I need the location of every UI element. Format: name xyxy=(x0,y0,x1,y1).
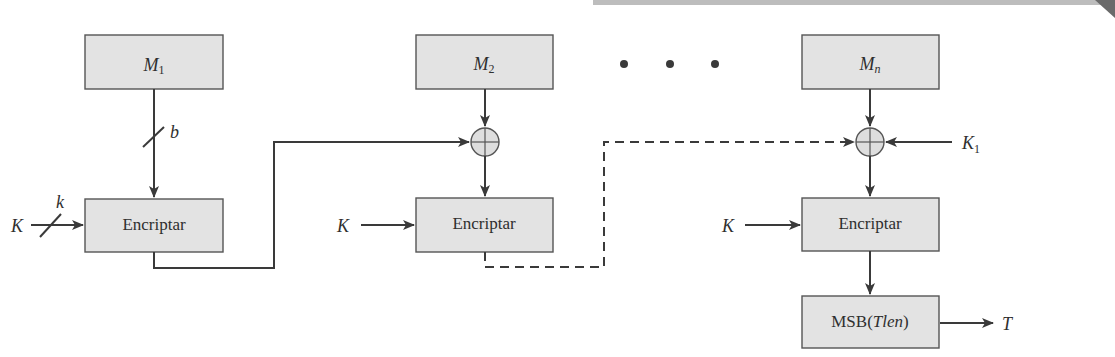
ellipsis-dot xyxy=(620,60,628,68)
ellipsis-dots xyxy=(620,60,719,68)
block-encrypt-2: Encriptar xyxy=(416,198,553,252)
key-label-3: K xyxy=(721,216,735,236)
block-m1: M1 xyxy=(85,35,223,89)
key-label-1: K xyxy=(10,216,24,236)
page-edge-band xyxy=(593,0,1115,18)
msb-suffix: ) xyxy=(903,312,909,331)
mn-label: M xyxy=(859,54,876,74)
block-encrypt-1: Encriptar xyxy=(85,199,223,252)
ellipsis-dot xyxy=(666,60,674,68)
encrypt-2-label: Encriptar xyxy=(452,214,516,233)
tag-output-label: T xyxy=(1002,314,1014,334)
subkey-subscript: 1 xyxy=(974,142,980,156)
bit-width-b-label: b xyxy=(170,122,179,142)
xor-icon-2 xyxy=(471,128,499,156)
block-msb-tlen: MSB(Tlen) xyxy=(802,296,939,348)
encrypt-1-label: Encriptar xyxy=(122,215,186,234)
msb-tlen: Tlen xyxy=(873,312,903,331)
block-mn: Mn xyxy=(802,35,939,89)
msb-prefix: MSB( xyxy=(831,312,873,331)
block-encrypt-3: Encriptar xyxy=(802,198,939,251)
bit-width-k-label: k xyxy=(56,192,65,212)
block-m2: M2 xyxy=(416,35,553,89)
svg-text:MSB(Tlen): MSB(Tlen) xyxy=(831,312,908,331)
m2-label: M xyxy=(473,54,490,74)
arrow-key-to-encrypt1 xyxy=(31,214,83,237)
ellipsis-dot xyxy=(711,60,719,68)
arrow-m1-to-encrypt1 xyxy=(143,89,164,197)
m1-label: M xyxy=(143,55,160,75)
encrypt-3-label: Encriptar xyxy=(838,214,902,233)
subkey-main: K xyxy=(961,133,975,153)
cmac-diagram: M1 b Encriptar K k M2 Encriptar K xyxy=(0,0,1115,357)
m2-subscript: 2 xyxy=(489,62,495,76)
key-label-2: K xyxy=(336,216,350,236)
subkey-label: K1 xyxy=(961,133,980,156)
m1-subscript: 1 xyxy=(159,63,165,77)
xor-icon-3 xyxy=(856,128,884,156)
mn-subscript: n xyxy=(875,62,881,76)
